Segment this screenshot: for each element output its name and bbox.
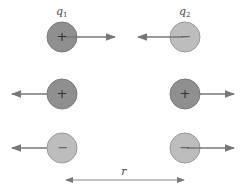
plus-sign: +: [57, 86, 68, 101]
q1-label: q1: [56, 5, 68, 19]
minus-sign: −: [58, 140, 69, 155]
plus-sign: +: [180, 86, 191, 101]
coulomb-force-diagram: q1 q2 + − + + − − r: [0, 0, 246, 188]
distance-label: r: [121, 165, 127, 178]
row-attraction: + −: [47, 22, 200, 52]
minus-sign: −: [181, 29, 192, 44]
row-repulsion-negative: − −: [12, 133, 234, 163]
minus-sign: −: [180, 140, 191, 155]
row-repulsion-positive: + +: [12, 79, 234, 109]
plus-sign: +: [57, 29, 68, 44]
q2-label: q2: [179, 5, 191, 19]
